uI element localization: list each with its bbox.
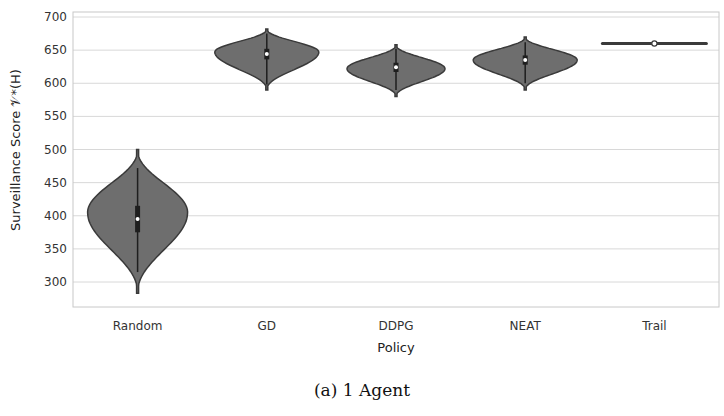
violin-neat [473,37,577,90]
x-tick-label: GD [258,319,277,333]
x-tick-label: Random [113,319,163,333]
x-tick-label: Trail [641,319,667,333]
violin-chart: 300350400450500550600650700 RandomGDDDPG… [0,0,724,416]
y-tick-label: 350 [44,242,67,256]
x-tick-label: DDPG [378,319,413,333]
violin-ddpg [347,45,445,97]
y-tick-label: 600 [44,76,67,90]
y-tick-label: 550 [44,109,67,123]
violins [88,29,707,293]
y-tick-label: 650 [44,43,67,57]
y-tick-label: 450 [44,176,67,190]
y-tick-label: 400 [44,209,67,223]
y-tick-label: 300 [44,275,67,289]
y-tick-label: 500 [44,143,67,157]
violin-trail [602,41,706,46]
x-tick-label: NEAT [510,319,542,333]
y-axis-label: Surveillance Score 𝒱*(H) [8,69,23,231]
x-axis-ticks: RandomGDDDPGNEATTrail [113,319,667,333]
y-tick-label: 700 [44,10,67,24]
figure-caption: (a) 1 Agent [0,380,724,400]
y-axis-ticks: 300350400450500550600650700 [44,10,67,289]
x-axis-label: Policy [377,340,415,355]
violin-random [88,150,188,294]
violin-gd [215,29,319,90]
